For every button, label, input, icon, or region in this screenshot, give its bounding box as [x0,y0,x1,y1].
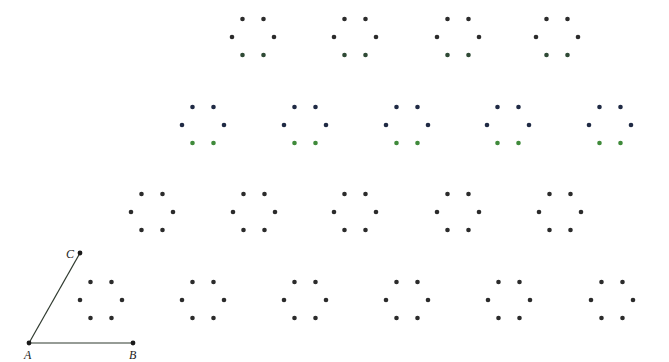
dot [534,35,539,40]
dot [485,123,490,128]
dot [394,141,399,146]
dot [190,105,195,110]
hexagon-dots [486,280,533,321]
dot [78,298,83,303]
dot [618,105,623,110]
hexagon-dots [129,192,176,233]
dot [618,141,623,146]
dot [222,298,227,303]
dot [620,280,625,285]
dot [282,123,287,128]
vertex-label-c: C [66,247,75,261]
dot [597,105,602,110]
dot [496,316,501,321]
dot [160,228,165,233]
dot [415,141,420,146]
dot [313,141,318,146]
hexagon-dots [537,192,584,233]
dot [282,298,287,303]
dot [332,35,337,40]
dot [631,298,636,303]
dot [262,228,267,233]
dot [579,210,584,215]
dot [292,316,297,321]
hexagon-dots [384,280,431,321]
dot [517,316,522,321]
dot [477,35,482,40]
dot [629,123,634,128]
dot [272,35,277,40]
dot [568,228,573,233]
dot [394,280,399,285]
dot [211,280,216,285]
dot [394,316,399,321]
dot [241,192,246,197]
dot [230,35,235,40]
dot [589,298,594,303]
dot [231,210,236,215]
dot [445,228,450,233]
dot [466,17,471,22]
dot [88,316,93,321]
row-4 [78,280,636,321]
hexagon-dots [485,105,532,146]
dot [313,280,318,285]
dot [190,280,195,285]
dot [342,192,347,197]
vertex-b [131,341,136,346]
hexagon-dots [180,105,227,146]
dot [620,316,625,321]
hexagon-dots [282,105,329,146]
dot [129,210,134,215]
dot [363,17,368,22]
dot [139,228,144,233]
dot [466,192,471,197]
hexagon-dots [332,17,379,58]
dot [384,123,389,128]
dot [516,105,521,110]
dot [160,192,165,197]
dot [292,141,297,146]
hexagon-dots [180,280,227,321]
dot [120,298,125,303]
dot [528,298,533,303]
dot [394,105,399,110]
dot [495,141,500,146]
dot [313,105,318,110]
dot [547,192,552,197]
dot [190,316,195,321]
dot [426,123,431,128]
hexagon-dots [282,280,329,321]
dot [445,53,450,58]
hexagon-dots [230,17,277,58]
hexagon-dots [534,17,581,58]
dot [240,17,245,22]
dot [599,280,604,285]
dot [180,123,185,128]
dot [495,105,500,110]
dot [435,210,440,215]
segment-ac [29,253,80,343]
dot [292,105,297,110]
row-1 [230,17,581,58]
triangle-abc: ABC [23,247,137,362]
dot [261,17,266,22]
hexagon-dots [435,17,482,58]
hexagon-dots [587,105,634,146]
dot [342,17,347,22]
dot [565,17,570,22]
dot [139,192,144,197]
dot [568,192,573,197]
dot [261,53,266,58]
dot [527,123,532,128]
dot [516,141,521,146]
vertex-c [78,251,83,256]
dot [384,298,389,303]
dot [222,123,227,128]
dot [292,280,297,285]
dot [597,141,602,146]
dot [415,280,420,285]
dot [426,298,431,303]
hexagon-rows [78,17,636,321]
dot [324,298,329,303]
